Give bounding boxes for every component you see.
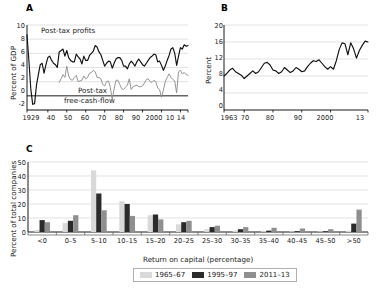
panel-b-plot: [190, 0, 376, 140]
bar-10–15-1965–67: [119, 201, 124, 232]
bar-20–25-2011–13: [186, 221, 191, 232]
bar-25–30-1995–97: [210, 227, 215, 232]
bar-<0-1965–67: [34, 230, 39, 232]
bar-25–30-2011–13: [215, 226, 220, 232]
bar-15–20-2011–13: [158, 219, 163, 232]
panel-c-legend: 1965–67 1995–97 2011–13: [133, 268, 297, 282]
bar-30–35-1995–97: [238, 229, 243, 232]
bar-5–10-2011–13: [101, 210, 106, 232]
bar-45–50-1995–97: [323, 231, 328, 232]
bar-30–35-2011–13: [243, 227, 248, 232]
bar-20–25-1965–67: [176, 224, 181, 232]
legend-item-2011-13: 2011–13: [244, 271, 289, 279]
bar-5–10-1995–97: [96, 194, 101, 233]
legend-label-2011-13: 2011–13: [259, 271, 289, 279]
panel-c-xtick->50: >50: [337, 237, 371, 245]
bar->50-1995–97: [351, 224, 356, 232]
bar-35–40-1995–97: [266, 231, 271, 232]
panel-b: B Percent 20 16 12 8 4 0 1963 70 80 90 2…: [190, 0, 376, 140]
bar-35–40-2011–13: [271, 228, 276, 232]
bar-45–50-1965–67: [318, 231, 323, 232]
bar-0–5-1965–67: [63, 223, 68, 232]
bar-40–45-1965–67: [289, 231, 294, 232]
panel-a: A Percent of GDP 10 8 6 4 2 0 -2 Post-ta…: [0, 0, 190, 140]
bar-35–40-1965–67: [261, 231, 266, 232]
bar-<0-2011–13: [45, 222, 50, 232]
bar-25–30-1965–67: [204, 229, 209, 232]
legend-item-1995-97: 1995–97: [192, 271, 237, 279]
bar-40–45-2011–13: [300, 229, 305, 233]
bar->50-1965–67: [346, 231, 351, 232]
bar-0–5-1995–97: [68, 221, 73, 232]
bar-40–45-1995–97: [295, 231, 300, 232]
bar-0–5-2011–13: [73, 215, 78, 232]
legend-swatch-1995-97: [192, 272, 204, 278]
bar-10–15-1995–97: [125, 204, 130, 232]
legend-swatch-2011-13: [244, 272, 256, 278]
legend-item-1965-67: 1965–67: [140, 271, 185, 279]
legend-label-1995-97: 1995–97: [207, 271, 237, 279]
bar-<0-1995–97: [40, 220, 45, 232]
figure-root: A Percent of GDP 10 8 6 4 2 0 -2 Post-ta…: [0, 0, 376, 291]
legend-label-1965-67: 1965–67: [155, 271, 185, 279]
bar-20–25-1995–97: [181, 222, 186, 232]
panel-c: C Percent of total companies 50 40 30 20…: [0, 140, 376, 291]
panel-a-plot: [0, 0, 190, 140]
bar-15–20-1995–97: [153, 215, 158, 233]
bar-45–50-2011–13: [328, 229, 333, 232]
bar-15–20-1965–67: [148, 215, 153, 232]
bar-10–15-2011–13: [130, 216, 135, 232]
panel-c-xlabel: Return on capital (percentage): [143, 255, 253, 264]
bar->50-2011–13: [356, 210, 361, 232]
bar-5–10-1965–67: [91, 170, 96, 232]
legend-swatch-1965-67: [140, 272, 152, 278]
bar-30–35-1965–67: [233, 231, 238, 232]
